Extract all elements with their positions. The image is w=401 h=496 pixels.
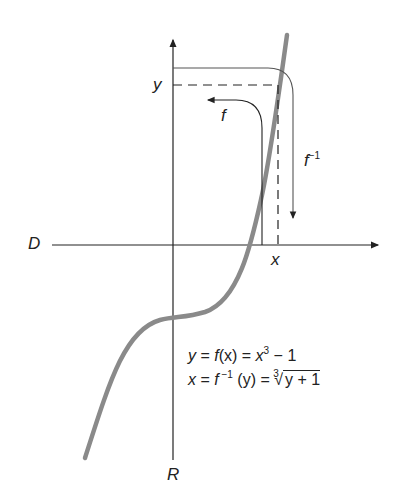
x-label: x (271, 250, 280, 270)
equation-inverse: x = f −1 (y) = 3√y + 1 (188, 364, 320, 391)
f-label: f (221, 106, 226, 126)
cube-root: 3√y + 1 (274, 369, 320, 391)
f-inverse-arrow (173, 68, 293, 218)
range-label: R (167, 465, 179, 485)
f-inverse-label: f−1 (304, 150, 320, 171)
y-label: y (153, 75, 162, 95)
cubic-curve (85, 35, 287, 458)
diagram-canvas (0, 0, 401, 496)
domain-label: D (28, 234, 40, 254)
equation-forward: y = f(x) = x3 − 1 (188, 340, 296, 367)
